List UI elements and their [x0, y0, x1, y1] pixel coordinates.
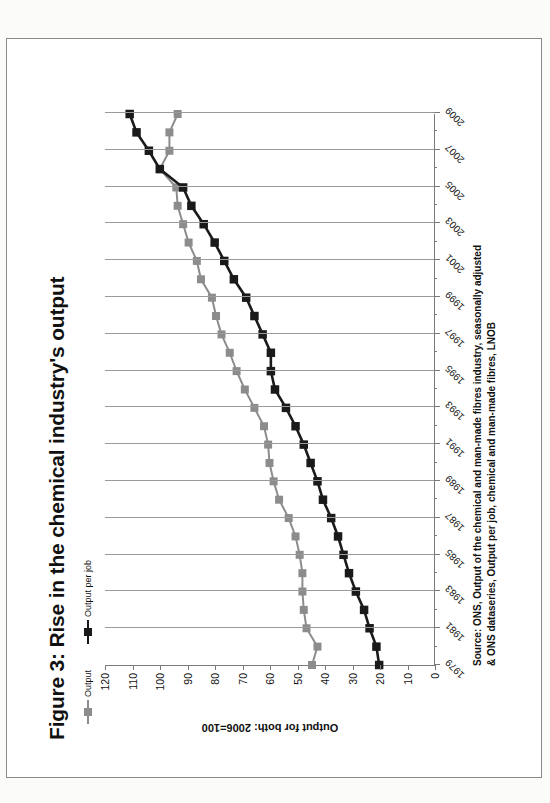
data-point-marker — [264, 441, 272, 449]
y-tick-mark — [380, 665, 381, 670]
x-tick-mark — [434, 443, 440, 444]
x-tick-mark — [434, 462, 437, 463]
y-tick-mark — [133, 665, 134, 670]
x-tick-mark — [434, 204, 437, 205]
vertical-gridline — [105, 112, 434, 113]
y-axis-label-text: Output for both: 2006=100 — [202, 722, 339, 734]
vertical-gridline — [105, 627, 434, 628]
series-2 — [125, 110, 383, 669]
y-tick-mark — [353, 665, 354, 670]
source-line-2: & ONS dataseries, Output per job, chemic… — [485, 76, 499, 666]
data-point-marker — [145, 146, 153, 154]
figure-page-frame: Figure 3: Rise in the chemical industry'… — [6, 38, 542, 778]
chart-legend: OutputOutput per job — [83, 560, 93, 724]
plot-area: 0102030405060708090100110120197919811983… — [105, 114, 435, 666]
x-tick-label: 1989 — [443, 473, 467, 497]
y-tick-label: 70 — [237, 673, 249, 685]
x-tick-mark — [434, 627, 440, 628]
data-point-marker — [212, 312, 220, 320]
vertical-gridline — [105, 517, 434, 518]
y-tick-label: 10 — [402, 673, 414, 685]
x-tick-mark — [434, 388, 437, 389]
y-tick-label: 100 — [154, 673, 166, 691]
x-tick-mark — [434, 517, 440, 518]
data-point-marker — [282, 404, 290, 412]
data-point-marker — [308, 661, 316, 669]
x-tick-mark — [434, 167, 437, 168]
rotated-figure-wrapper: Figure 3: Rise in the chemical industry'… — [39, 58, 509, 758]
data-point-marker — [334, 532, 342, 540]
legend-item-0[interactable]: Output — [83, 670, 93, 724]
data-point-marker — [267, 367, 275, 375]
x-tick-label: 1991 — [443, 436, 467, 460]
x-tick-mark — [434, 186, 440, 187]
vertical-gridline — [105, 480, 434, 481]
x-tick-label: 1997 — [443, 326, 467, 350]
data-point-marker — [339, 551, 347, 559]
data-point-marker — [258, 330, 266, 338]
y-tick-label: 120 — [99, 673, 111, 691]
x-tick-label: 1987 — [443, 510, 467, 534]
vertical-gridline — [105, 443, 434, 444]
x-tick-label: 1985 — [443, 547, 467, 571]
y-tick-label: 40 — [319, 673, 331, 685]
x-tick-mark — [434, 406, 440, 407]
y-axis-label: Output for both: 2006=100 — [105, 720, 435, 736]
x-tick-label: 1981 — [443, 620, 467, 644]
y-tick-mark — [160, 665, 161, 670]
x-tick-label: 1995 — [443, 363, 467, 387]
square-marker-icon — [83, 700, 93, 724]
data-point-marker — [187, 202, 195, 210]
x-tick-mark — [434, 314, 437, 315]
y-tick-mark — [215, 665, 216, 670]
series-line — [130, 114, 379, 665]
vertical-gridline — [105, 259, 434, 260]
source-line-1: Source: ONS, Output of the chemical and … — [471, 76, 485, 666]
vertical-gridline — [105, 186, 434, 187]
vertical-gridline — [105, 222, 434, 223]
y-tick-mark — [408, 665, 409, 670]
data-point-marker — [233, 367, 241, 375]
data-point-marker — [220, 257, 228, 265]
data-point-marker — [208, 294, 216, 302]
x-tick-label: 2009 — [443, 105, 467, 129]
x-tick-mark — [434, 149, 440, 150]
data-point-marker — [313, 477, 321, 485]
vertical-gridline — [105, 296, 434, 297]
legend-item-1[interactable]: Output per job — [83, 560, 93, 644]
data-point-marker — [179, 183, 187, 191]
data-point-marker — [365, 624, 373, 632]
data-point-marker — [199, 220, 207, 228]
data-point-marker — [193, 257, 201, 265]
x-tick-mark — [434, 130, 437, 131]
x-tick-mark — [434, 498, 437, 499]
data-point-marker — [360, 606, 368, 614]
series-1 — [156, 110, 322, 669]
data-point-marker — [226, 349, 234, 357]
source-note: Source: ONS, Output of the chemical and … — [471, 76, 498, 666]
data-point-marker — [372, 642, 380, 650]
x-tick-mark — [434, 259, 440, 260]
x-tick-label: 2001 — [443, 252, 467, 276]
y-tick-label: 60 — [264, 673, 276, 685]
data-point-marker — [319, 495, 327, 503]
x-tick-label: 1999 — [443, 289, 467, 313]
x-tick-mark — [434, 370, 440, 371]
data-point-marker — [285, 514, 293, 522]
data-point-marker — [300, 440, 308, 448]
vertical-gridline — [105, 370, 434, 371]
data-point-marker — [174, 202, 182, 210]
data-point-marker — [156, 165, 164, 173]
y-tick-label: 110 — [127, 673, 139, 690]
x-tick-label: 1993 — [443, 400, 467, 424]
x-tick-label: 1983 — [443, 584, 467, 608]
data-point-marker — [241, 386, 249, 394]
page-title: Figure 3: Rise in the chemical industry'… — [45, 277, 69, 740]
x-tick-mark — [434, 241, 437, 242]
data-point-marker — [132, 128, 140, 136]
vertical-gridline — [105, 590, 434, 591]
data-point-marker — [303, 624, 311, 632]
y-tick-mark — [325, 665, 326, 670]
series-lines — [105, 114, 434, 665]
data-point-marker — [266, 459, 274, 467]
